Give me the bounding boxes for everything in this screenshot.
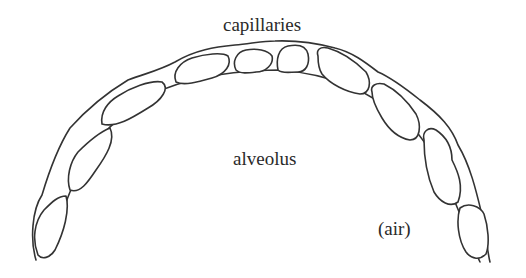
- capillary-8: [372, 83, 420, 140]
- label-air: (air): [378, 219, 411, 238]
- label-capillaries: capillaries: [223, 15, 301, 34]
- label-alveolus: alveolus: [233, 149, 296, 168]
- capillary-7: [317, 47, 369, 94]
- alveolus-diagram: capillaries alveolus (air): [0, 0, 526, 278]
- capillary-10: [458, 205, 488, 258]
- capillary-1: [35, 196, 68, 258]
- capillary-3: [102, 82, 165, 125]
- capillary-6: [277, 45, 308, 72]
- capillary-5: [234, 49, 272, 73]
- capillary-9: [424, 129, 461, 205]
- alveolar-wall-drawing: [0, 0, 526, 278]
- capillary-2: [68, 128, 111, 191]
